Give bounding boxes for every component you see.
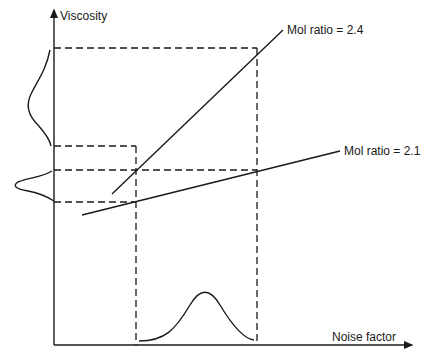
narrow-viscosity-distribution — [15, 171, 54, 201]
label-mol-ratio-2-1: Mol ratio = 2.1 — [344, 144, 421, 158]
label-mol-ratio-2-4: Mol ratio = 2.4 — [287, 23, 364, 37]
y-axis-label: Viscosity — [60, 9, 107, 23]
wide-viscosity-distribution — [28, 50, 51, 146]
line-mol-ratio-2-1 — [82, 151, 340, 215]
robust-design-diagram: Viscosity Noise factor Mol ratio = 2.4 M… — [0, 0, 423, 357]
noise-factor-distribution — [139, 292, 254, 341]
x-axis-label: Noise factor — [332, 330, 396, 344]
